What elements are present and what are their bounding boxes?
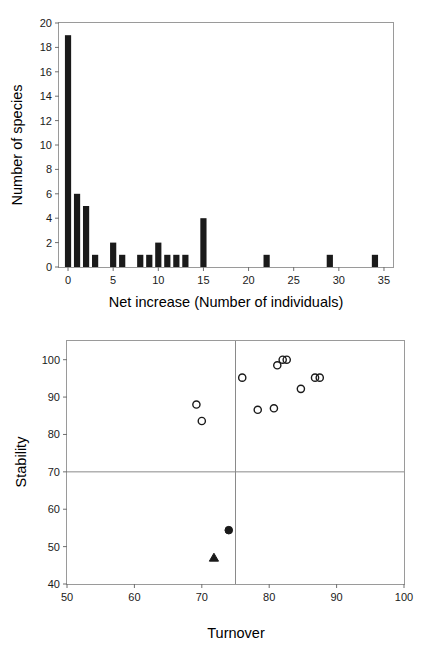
data-point-open-circle	[316, 374, 323, 381]
x-tick-label: 35	[378, 274, 390, 286]
y-tick-label: 16	[40, 66, 52, 78]
y-tick-label: 14	[40, 90, 52, 102]
histogram-bars	[65, 35, 378, 267]
y-tick-label: 8	[46, 163, 52, 175]
x-tick-label: 15	[197, 274, 209, 286]
y-tick-label: 100	[42, 354, 60, 366]
data-point-open-circle	[198, 417, 205, 424]
histogram-bar	[110, 243, 116, 267]
histogram-bar	[65, 35, 71, 267]
histogram-bar	[182, 255, 188, 267]
x-tick-label: 10	[152, 274, 164, 286]
scatter-data-points	[193, 356, 324, 561]
histogram-bar	[164, 255, 170, 267]
x-tick-label: 60	[128, 591, 140, 603]
data-point-filled-triangle	[209, 553, 218, 561]
histogram-plot-frame	[59, 23, 394, 268]
histogram-bar	[155, 243, 161, 267]
y-tick-label: 2	[46, 237, 52, 249]
y-tick-label: 50	[48, 541, 60, 553]
histogram-bar	[327, 255, 333, 267]
scatter-y-axis-title: Stability	[13, 436, 29, 488]
y-tick-label: 70	[48, 466, 60, 478]
y-tick-label: 4	[46, 212, 52, 224]
x-tick-label: 50	[61, 591, 73, 603]
y-tick-label: 10	[40, 139, 52, 151]
data-point-filled-circle	[225, 526, 233, 534]
x-tick-label: 5	[110, 274, 116, 286]
histogram-y-axis-title: Number of species	[9, 85, 25, 206]
x-tick-label: 70	[196, 591, 208, 603]
data-point-open-circle	[254, 406, 261, 413]
histogram-bar	[372, 255, 378, 267]
data-point-open-circle	[270, 405, 277, 412]
scatter-figure: 405060708090100 5060708090100 Stability …	[0, 320, 432, 659]
histogram-bar	[119, 255, 125, 267]
scatter-chart: 405060708090100 5060708090100 Stability …	[0, 320, 432, 659]
x-tick-label: 20	[242, 274, 254, 286]
scatter-x-axis: 5060708090100	[61, 584, 413, 603]
histogram-y-axis: 02468101214161820	[40, 17, 59, 273]
y-tick-label: 12	[40, 115, 52, 127]
histogram-figure: 02468101214161820 05101520253035 Number …	[0, 0, 432, 320]
data-point-open-circle	[297, 385, 304, 392]
y-tick-label: 6	[46, 188, 52, 200]
histogram-chart: 02468101214161820 05101520253035 Number …	[0, 0, 432, 320]
x-tick-label: 100	[395, 591, 413, 603]
y-tick-label: 90	[48, 391, 60, 403]
y-tick-label: 0	[46, 261, 52, 273]
scatter-x-axis-title: Turnover	[207, 625, 265, 641]
x-tick-label: 90	[330, 591, 342, 603]
histogram-bar	[83, 206, 89, 267]
data-point-open-circle	[193, 401, 200, 408]
histogram-x-axis: 05101520253035	[65, 267, 390, 286]
histogram-bar	[264, 255, 270, 267]
y-tick-label: 80	[48, 428, 60, 440]
x-tick-label: 30	[333, 274, 345, 286]
data-point-open-circle	[239, 374, 246, 381]
scatter-reference-lines	[67, 341, 404, 584]
histogram-bar	[137, 255, 143, 267]
histogram-bar	[173, 255, 179, 267]
histogram-bar	[146, 255, 152, 267]
x-tick-label: 0	[65, 274, 71, 286]
y-tick-label: 20	[40, 17, 52, 29]
x-tick-label: 80	[263, 591, 275, 603]
scatter-y-axis: 405060708090100	[42, 354, 67, 590]
histogram-bar	[92, 255, 98, 267]
histogram-bar	[200, 218, 206, 267]
y-tick-label: 40	[48, 578, 60, 590]
histogram-x-axis-title: Net increase (Number of individuals)	[109, 294, 344, 310]
histogram-bar	[74, 194, 80, 267]
x-tick-label: 25	[288, 274, 300, 286]
y-tick-label: 60	[48, 503, 60, 515]
y-tick-label: 18	[40, 41, 52, 53]
